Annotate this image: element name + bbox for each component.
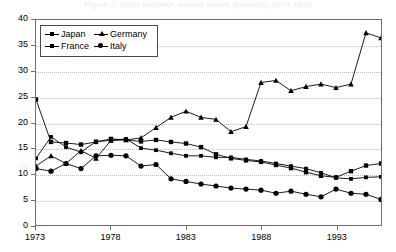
data-point [48, 169, 53, 174]
data-point [198, 181, 203, 186]
data-point [378, 197, 381, 202]
series-japan [36, 97, 381, 179]
data-point [36, 156, 38, 160]
data-point [123, 153, 128, 158]
legend-marker-france [45, 42, 59, 51]
data-point [36, 97, 38, 101]
data-point [318, 194, 323, 199]
legend-item-italy[interactable]: Italy [94, 41, 152, 53]
data-point [63, 161, 68, 166]
data-point [333, 187, 338, 192]
data-point [213, 183, 218, 188]
data-point [273, 78, 279, 83]
data-point [94, 140, 98, 144]
data-point [184, 154, 188, 158]
data-point [318, 81, 324, 86]
data-point [379, 175, 381, 179]
chart-root: Figure 2. Ratio indicator, annual values… [0, 0, 396, 252]
data-point [304, 170, 308, 174]
data-point [184, 141, 188, 145]
data-point [139, 146, 143, 150]
data-point [319, 171, 323, 175]
x-tick [337, 226, 338, 230]
data-point [243, 124, 249, 129]
data-point [183, 179, 188, 184]
data-point [214, 155, 218, 159]
x-tick [186, 226, 187, 230]
data-point [108, 153, 113, 158]
data-point [304, 167, 308, 171]
data-point [138, 163, 143, 168]
x-tick-label: 1988 [236, 232, 286, 242]
legend-item-france[interactable]: France [45, 41, 94, 53]
data-point [303, 192, 308, 197]
legend-marker-japan [45, 30, 59, 39]
series-france [36, 135, 381, 181]
legend-marker-italy [94, 42, 108, 51]
data-point [49, 140, 53, 144]
data-point [79, 150, 83, 154]
data-point [78, 166, 83, 171]
x-tick [110, 226, 111, 230]
y-tick-label: 40 [2, 14, 28, 23]
x-tick-label: 1993 [312, 232, 362, 242]
data-point [349, 177, 353, 181]
data-point [198, 115, 204, 120]
data-point [378, 35, 381, 40]
data-point [79, 142, 83, 146]
legend-item-japan[interactable]: Japan [45, 29, 94, 41]
data-point [183, 108, 189, 113]
y-tick-label: 5 [2, 195, 28, 204]
y-tick-label: 25 [2, 92, 28, 101]
legend-label-italy: Italy [110, 41, 127, 52]
x-tick [261, 226, 262, 230]
data-point [348, 81, 354, 86]
data-point [64, 145, 68, 149]
y-tick-label: 0 [2, 221, 28, 230]
legend-label-japan: Japan [61, 29, 86, 40]
data-point [154, 148, 158, 152]
data-point [153, 162, 158, 167]
data-point [199, 154, 203, 158]
series-italy [36, 153, 381, 202]
data-point [168, 115, 174, 120]
y-tick-label: 20 [2, 118, 28, 127]
data-point [259, 159, 263, 163]
data-point [168, 176, 173, 181]
data-point [244, 158, 248, 162]
data-point [334, 176, 338, 180]
y-tick-label: 35 [2, 40, 28, 49]
data-point [154, 138, 158, 142]
x-tick [35, 226, 36, 230]
data-point [169, 151, 173, 155]
data-point [109, 139, 113, 143]
data-point [288, 189, 293, 194]
data-point [274, 162, 278, 166]
x-tick-label: 1973 [10, 232, 60, 242]
legend-item-germany[interactable]: Germany [94, 29, 152, 41]
data-point [289, 164, 293, 168]
data-point [169, 140, 173, 144]
legend-marker-germany [94, 30, 108, 39]
data-point [49, 135, 53, 139]
data-point [199, 145, 203, 149]
y-tick-label: 10 [2, 169, 28, 178]
data-point [363, 192, 368, 197]
x-tick-label: 1978 [85, 232, 135, 242]
data-point [348, 191, 353, 196]
legend-label-germany: Germany [110, 29, 147, 40]
x-tick-label: 1983 [161, 232, 211, 242]
data-point [229, 155, 233, 159]
legend-label-france: France [61, 41, 89, 52]
data-point [64, 141, 68, 145]
data-point [363, 30, 369, 35]
chart-legend: Japan Germany [40, 25, 158, 57]
data-point [138, 135, 144, 140]
data-point [36, 166, 39, 171]
data-point [48, 153, 54, 158]
series-line [36, 155, 381, 199]
y-tick-label: 15 [2, 143, 28, 152]
data-point [243, 187, 248, 192]
data-point [258, 188, 263, 193]
series-line [36, 99, 381, 177]
